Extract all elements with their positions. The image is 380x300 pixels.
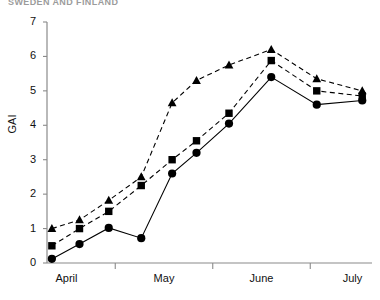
series-circle-point [137, 234, 145, 242]
series-triangle-point [267, 45, 276, 53]
series-square-point [313, 87, 320, 94]
series-circle-point [267, 73, 275, 81]
series-circle-point [168, 169, 176, 177]
series-square-point [76, 225, 83, 232]
series-circle-point [75, 240, 83, 248]
series-triangle-point [75, 215, 84, 223]
series-square-point [48, 242, 55, 249]
series-square [48, 57, 366, 250]
series-square-point [105, 208, 112, 215]
series-square-point [225, 110, 232, 117]
series-square-point [268, 57, 275, 64]
series-triangle-point [137, 172, 146, 180]
series-square-point [193, 137, 200, 144]
series-circle-point [48, 255, 56, 263]
series-triangle-point [192, 76, 201, 84]
chart-figure: SWEDEN AND FINLAND GAI 01234567 AprilMay… [0, 0, 380, 300]
series-circle-point [313, 101, 321, 109]
series-triangle-point [358, 86, 367, 94]
series-circle-point [192, 149, 200, 157]
series-circle-point [105, 224, 113, 232]
series-circle [48, 73, 367, 263]
plot-area [0, 0, 380, 300]
series-triangle-point [104, 196, 113, 204]
data-series-layer [47, 45, 366, 263]
series-circle-point [225, 119, 233, 127]
axes [43, 22, 372, 269]
series-square-point [138, 182, 145, 189]
series-triangle [47, 45, 366, 232]
series-triangle-point [312, 74, 321, 82]
series-square-point [168, 156, 175, 163]
